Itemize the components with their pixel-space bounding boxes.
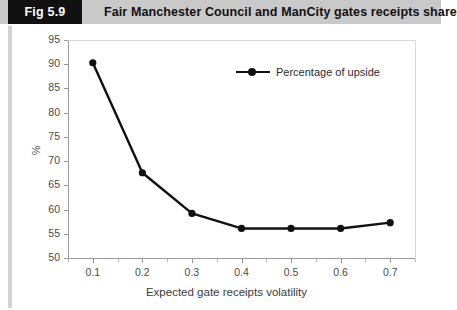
y-tick-mark — [64, 161, 68, 162]
y-tick-label: 70 — [38, 154, 60, 166]
x-tick-label: 0.6 — [326, 266, 356, 278]
x-minor-tick-mark — [217, 259, 218, 262]
y-tick-mark — [64, 137, 68, 138]
x-tick-mark — [242, 259, 243, 263]
plot-top-border — [68, 40, 416, 41]
x-tick-mark — [142, 259, 143, 263]
y-tick-label: 55 — [38, 227, 60, 239]
x-minor-tick-mark — [68, 259, 69, 262]
y-tick-label: 90 — [38, 57, 60, 69]
y-tick-mark — [64, 234, 68, 235]
y-tick-label: 80 — [38, 106, 60, 118]
y-axis-label: % — [30, 146, 42, 155]
series-line-percentage-of-upside — [93, 63, 390, 229]
legend-line-marker-icon — [236, 67, 270, 78]
y-tick-label: 85 — [38, 81, 60, 93]
data-point-marker — [139, 169, 146, 176]
x-minor-tick-mark — [316, 259, 317, 262]
y-tick-mark — [64, 40, 68, 41]
figure-title: Fair Manchester Council and ManCity gate… — [104, 0, 457, 24]
x-tick-mark — [390, 259, 391, 263]
figure-content: 505560657075808590950.10.20.30.40.50.60.… — [12, 26, 441, 310]
x-minor-tick-mark — [415, 259, 416, 262]
y-tick-mark — [64, 64, 68, 65]
figure-number-badge: Fig 5.9 — [8, 0, 82, 24]
legend-label: Percentage of upside — [276, 66, 380, 78]
x-axis-label: Expected gate receipts volatility — [12, 286, 441, 298]
data-point-marker — [89, 59, 96, 66]
data-point-marker — [387, 219, 394, 226]
y-tick-label: 75 — [38, 130, 60, 142]
y-tick-mark — [64, 210, 68, 211]
x-tick-label: 0.5 — [276, 266, 306, 278]
data-point-marker — [337, 225, 344, 232]
y-tick-label: 50 — [38, 251, 60, 263]
x-minor-tick-mark — [118, 259, 119, 262]
x-tick-mark — [192, 259, 193, 263]
x-minor-tick-mark — [167, 259, 168, 262]
x-tick-label: 0.2 — [127, 266, 157, 278]
data-point-marker — [287, 225, 294, 232]
data-point-marker — [188, 210, 195, 217]
x-minor-tick-mark — [266, 259, 267, 262]
y-tick-mark — [64, 88, 68, 89]
data-point-marker — [238, 225, 245, 232]
y-tick-mark — [64, 113, 68, 114]
x-tick-label: 0.7 — [375, 266, 405, 278]
x-tick-mark — [93, 259, 94, 263]
plot-right-border — [415, 40, 416, 259]
y-tick-label: 60 — [38, 203, 60, 215]
x-tick-label: 0.1 — [78, 266, 108, 278]
chart-legend: Percentage of upside — [236, 66, 380, 78]
x-minor-tick-mark — [365, 259, 366, 262]
x-tick-mark — [341, 259, 342, 263]
y-tick-mark — [64, 185, 68, 186]
line-chart: 505560657075808590950.10.20.30.40.50.60.… — [12, 26, 441, 310]
y-tick-label: 95 — [38, 33, 60, 45]
y-tick-label: 65 — [38, 178, 60, 190]
x-tick-label: 0.4 — [227, 266, 257, 278]
y-axis-line — [68, 40, 69, 259]
x-tick-mark — [291, 259, 292, 263]
x-tick-label: 0.3 — [177, 266, 207, 278]
